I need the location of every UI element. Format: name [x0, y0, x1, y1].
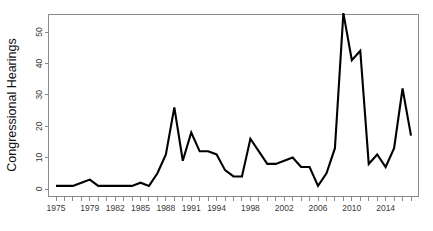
- y-axis-title: Congressional Hearings: [5, 38, 19, 171]
- y-tick-label: 30: [34, 90, 44, 100]
- hearings-data-line: [56, 13, 411, 186]
- x-tick-label: 1994: [207, 203, 226, 213]
- y-axis-tick-labels: 01020304050: [34, 27, 44, 191]
- x-tick-label: 1975: [47, 203, 66, 213]
- line-chart-plot: 01020304050 1975197919821985198819911994…: [0, 0, 433, 231]
- y-axis-ticks: [45, 32, 49, 189]
- x-tick-label: 2006: [309, 203, 328, 213]
- x-tick-label: 2002: [275, 203, 294, 213]
- x-tick-label: 2014: [376, 203, 395, 213]
- x-tick-label: 1979: [80, 203, 99, 213]
- y-tick-label: 0: [34, 186, 44, 191]
- x-tick-label: 1991: [182, 203, 201, 213]
- y-tick-label: 20: [34, 121, 44, 131]
- plot-border: [49, 15, 419, 197]
- chart-figure: 01020304050 1975197919821985198819911994…: [0, 0, 433, 231]
- x-tick-label: 1988: [156, 203, 175, 213]
- y-tick-label: 50: [34, 27, 44, 37]
- x-tick-label: 1998: [241, 203, 260, 213]
- x-axis-minor-ticks: [56, 197, 411, 201]
- x-tick-label: 2010: [342, 203, 361, 213]
- plot-frame: [49, 15, 419, 197]
- y-tick-label: 40: [34, 58, 44, 68]
- x-tick-label: 1982: [106, 203, 125, 213]
- y-tick-label: 10: [34, 153, 44, 163]
- x-tick-label: 1985: [131, 203, 150, 213]
- x-axis-tick-labels: 1975197919821985198819911994199820022006…: [47, 203, 396, 213]
